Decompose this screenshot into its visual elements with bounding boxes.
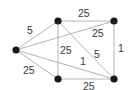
edge-weight-label: 5 — [27, 24, 33, 36]
node-top-right — [110, 17, 117, 24]
edge-weight-label: 25 — [83, 80, 95, 90]
edge-weight-label: 25 — [78, 7, 90, 19]
edge-weight-label: 1 — [80, 55, 86, 67]
edge-weight-label: 1 — [118, 42, 124, 54]
edge-left-top-mid — [16, 21, 58, 50]
edge-weight-label: 25 — [92, 27, 104, 39]
node-left — [12, 46, 19, 53]
node-bottom-right — [110, 75, 117, 82]
edge-weight-label: 25 — [60, 44, 72, 56]
weighted-graph-diagram: 52525125255125 — [0, 0, 129, 90]
node-bottom-mid — [54, 75, 61, 82]
edge-weight-label: 5 — [94, 48, 100, 60]
edge-weight-label: 25 — [23, 64, 35, 76]
node-top-mid — [54, 17, 61, 24]
